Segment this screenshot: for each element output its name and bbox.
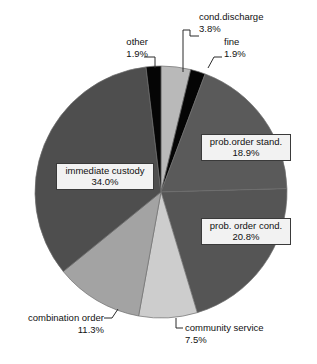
label-combination-order: combination order 11.3% <box>6 312 104 335</box>
label-immediate-custody-value: 34.0% <box>60 176 150 187</box>
label-prob-order-stand: prob.order stand. 18.9% <box>201 134 291 161</box>
label-immediate-custody-name: immediate custody <box>60 165 150 176</box>
label-prob-order-stand-name: prob.order stand. <box>205 136 287 147</box>
label-prob-order-cond: prob. order cond. 20.8% <box>201 218 291 245</box>
label-combination-order-name: combination order <box>6 312 104 324</box>
leader-line-cond-discharge <box>183 30 199 72</box>
label-prob-order-cond-value: 20.8% <box>205 231 287 242</box>
label-immediate-custody: immediate custody 34.0% <box>56 163 154 190</box>
label-fine-value: 1.9% <box>224 48 268 60</box>
label-fine: fine 1.9% <box>224 36 268 59</box>
label-other-name: other <box>96 36 148 48</box>
leader-line-combination-order <box>104 309 118 318</box>
label-community-service: community service 7.5% <box>185 322 290 345</box>
label-other: other 1.9% <box>96 36 148 59</box>
leader-line-community-service <box>176 318 183 328</box>
pie-slice-group <box>35 66 287 318</box>
label-fine-name: fine <box>224 36 268 48</box>
label-prob-order-stand-value: 18.9% <box>205 147 287 158</box>
label-prob-order-cond-name: prob. order cond. <box>205 220 287 231</box>
pie-chart-canvas <box>0 0 317 364</box>
leader-line-fine <box>208 57 222 68</box>
label-community-service-value: 7.5% <box>185 334 290 346</box>
label-cond-discharge-name: cond.discharge <box>199 11 289 23</box>
label-combination-order-value: 11.3% <box>6 324 104 336</box>
pie-chart: other 1.9% cond.discharge 3.8% fine 1.9%… <box>0 0 317 364</box>
label-cond-discharge-value: 3.8% <box>199 23 289 35</box>
label-other-value: 1.9% <box>96 48 148 60</box>
label-cond-discharge: cond.discharge 3.8% <box>199 11 289 34</box>
label-community-service-name: community service <box>185 322 290 334</box>
